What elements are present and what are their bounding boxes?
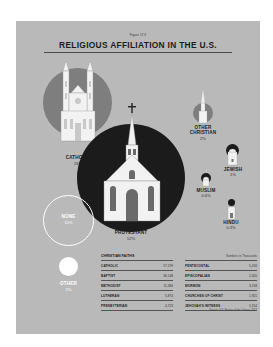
table-row: MORMON3,158 (185, 281, 257, 291)
faith-name: PRESBYTERIAN (101, 304, 127, 308)
temple-icon (227, 207, 236, 219)
other-christian-percent: 2% (183, 136, 223, 141)
jewish-percent: 1% (217, 172, 249, 177)
source-note: Source: U.S. Bureau of the Census, 2012 (185, 309, 257, 312)
none-percent: 15% (43, 220, 94, 225)
table-unit-note: Numbers in Thousands (185, 252, 257, 261)
other-bubble (59, 257, 78, 276)
faith-value: 3,158 (249, 284, 257, 288)
title-divider (44, 52, 232, 53)
table-row: CHURCHES OF CHRIST1,921 (185, 291, 257, 301)
faith-value: 5,416 (249, 264, 257, 268)
table-row: PENTECOSTAL5,416 (185, 261, 257, 271)
faith-name: JEHOVAH'S WITNESS (185, 304, 220, 308)
chapel-icon (198, 87, 208, 123)
church-icon (100, 103, 164, 223)
other-christian-label-2: CHRISTIAN (183, 130, 223, 135)
table-left-column: CHRISTIAN FAITHS CATHOLIC57,199 BAPTIST3… (101, 252, 173, 311)
table-row: PRESBYTERIAN4,723 (101, 301, 173, 311)
other-label: OTHER (48, 281, 89, 286)
faith-value: 1,914 (249, 304, 257, 308)
muslim-percent: 0.6% (191, 193, 221, 198)
faith-value: 36,148 (163, 274, 173, 278)
none-label: NONE (43, 214, 94, 219)
other-percent: 2% (48, 287, 89, 292)
table-row: LUTHERAN5,874 (101, 291, 173, 301)
table-row: CATHOLIC57,199 (101, 261, 173, 271)
faith-name: METHODIST (101, 284, 121, 288)
faith-value: 4,723 (165, 304, 173, 308)
synagogue-icon (227, 149, 238, 165)
faith-value: 11,366 (163, 284, 173, 288)
faith-name: CHURCHES OF CHRIST (185, 294, 223, 298)
hindu-percent: 0.3% (216, 225, 246, 230)
figure-label: Figure 17.3 (16, 33, 260, 37)
chart-title: RELIGIOUS AFFILIATION IN THE U.S. (16, 40, 260, 50)
faith-name: BAPTIST (101, 274, 115, 278)
table-heading: CHRISTIAN FAITHS (101, 252, 173, 261)
faith-value: 5,874 (165, 294, 173, 298)
infographic-panel: Figure 17.3 RELIGIOUS AFFILIATION IN THE… (16, 21, 260, 334)
faith-name: MORMON (185, 284, 200, 288)
table-row: EPISCOPALIAN2,405 (185, 271, 257, 281)
table-row: METHODIST11,366 (101, 281, 173, 291)
hindu-bubble (228, 199, 235, 206)
faith-value: 57,199 (163, 264, 173, 268)
faith-value: 1,921 (249, 294, 257, 298)
protestant-label: PROTESTANT (101, 230, 161, 235)
table-row: BAPTIST36,148 (101, 271, 173, 281)
mosque-icon (202, 169, 210, 186)
faith-value: 2,405 (249, 274, 257, 278)
table-right-column: Numbers in Thousands PENTECOSTAL5,416 EP… (185, 252, 257, 311)
faith-name: CATHOLIC (101, 264, 118, 268)
faith-name: LUTHERAN (101, 294, 119, 298)
faith-name: EPISCOPALIAN (185, 274, 210, 278)
cathedral-icon (58, 61, 98, 151)
protestant-percent: 52% (101, 236, 161, 241)
faith-name: PENTECOSTAL (185, 264, 210, 268)
